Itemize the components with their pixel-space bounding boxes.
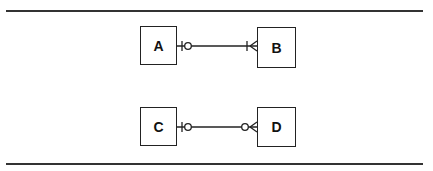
top-rule — [6, 10, 423, 12]
zero-circle-icon — [185, 43, 192, 50]
entity-d: D — [257, 107, 296, 147]
crows-foot-icon — [250, 122, 257, 127]
zero-circle-icon — [242, 124, 249, 131]
entity-label: B — [271, 40, 281, 56]
entity-a: A — [140, 26, 177, 65]
entity-label: D — [271, 119, 281, 135]
relationship-a-b — [177, 41, 257, 51]
relationship-connectors — [0, 0, 433, 171]
crows-foot-icon — [250, 41, 257, 46]
bottom-rule — [6, 163, 423, 165]
entity-b: B — [257, 27, 296, 68]
entity-label: C — [153, 119, 163, 135]
entity-c: C — [140, 107, 177, 146]
zero-circle-icon — [185, 124, 192, 131]
entity-label: A — [153, 38, 163, 54]
relationship-c-d — [177, 122, 257, 132]
